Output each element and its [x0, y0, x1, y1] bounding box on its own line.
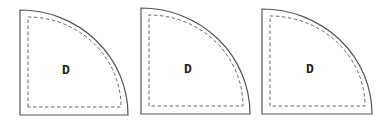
quarter-circle-shape: D: [262, 9, 372, 114]
quarter-circle-diagram: DDD: [0, 0, 379, 123]
shape-label: D: [306, 62, 314, 77]
outer-outline: [20, 10, 128, 115]
outer-outline: [262, 9, 372, 114]
shape-label: D: [62, 63, 70, 78]
quarter-circle-shape: D: [20, 10, 128, 115]
quarter-circle-shape: D: [141, 8, 250, 114]
shape-label: D: [184, 62, 192, 77]
outer-outline: [141, 8, 250, 114]
